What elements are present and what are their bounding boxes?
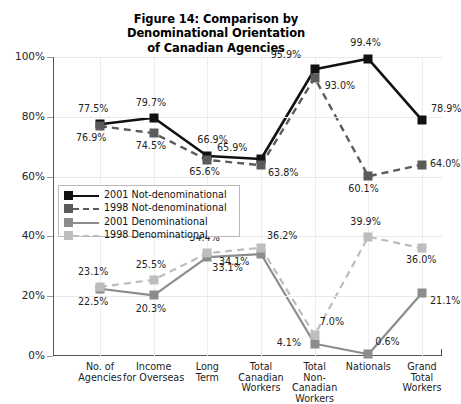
chart-legend: 2001 Not-denominational1998 Not-denomina… bbox=[58, 185, 240, 237]
data-point-label: 7.0% bbox=[320, 317, 344, 327]
y-tick-label: 80% bbox=[1, 111, 45, 122]
data-point-label: 34.1% bbox=[219, 257, 249, 267]
data-point-label: 21.1% bbox=[430, 296, 460, 306]
chart-title: Figure 14: Comparison by Denominational … bbox=[86, 12, 346, 55]
data-point-label: 4.1% bbox=[277, 338, 301, 348]
data-point-label: 20.3% bbox=[136, 304, 166, 314]
data-point-label: 23.1% bbox=[78, 267, 108, 277]
gridline-horizontal bbox=[54, 296, 442, 297]
data-point-marker bbox=[96, 122, 105, 131]
legend-label: 2001 Denominational bbox=[104, 216, 208, 227]
legend-label: 1998 Not-denominational bbox=[104, 202, 227, 213]
legend-line-sample bbox=[73, 195, 99, 197]
data-point-label: 0.6% bbox=[375, 337, 399, 347]
data-point-label: 77.5% bbox=[78, 104, 108, 114]
x-axis-right-cap bbox=[441, 349, 442, 356]
data-point-marker bbox=[364, 232, 373, 241]
data-point-label: 95.9% bbox=[271, 50, 301, 60]
data-point-label: 99.4% bbox=[350, 38, 380, 48]
data-point-marker bbox=[149, 291, 158, 300]
x-axis-line bbox=[53, 355, 442, 356]
legend-line-sample bbox=[73, 235, 99, 237]
gridline-vertical bbox=[315, 57, 316, 356]
gridline-horizontal bbox=[54, 177, 442, 178]
x-tick-label: GrandTotalWorkers bbox=[385, 362, 459, 394]
legend-line-sample bbox=[73, 208, 99, 210]
data-point-label: 25.5% bbox=[136, 260, 166, 270]
data-point-label: 63.8% bbox=[268, 168, 298, 178]
y-axis-line bbox=[53, 57, 54, 356]
y-tick-label: 40% bbox=[1, 230, 45, 241]
data-point-marker bbox=[310, 65, 319, 74]
legend-line-sample bbox=[73, 222, 99, 224]
data-point-label: 76.9% bbox=[76, 133, 106, 143]
data-point-label: 79.7% bbox=[136, 98, 166, 108]
data-point-label: 64.0% bbox=[430, 159, 460, 169]
gridline-horizontal bbox=[54, 57, 442, 58]
data-point-marker bbox=[418, 244, 427, 253]
gridline-vertical bbox=[261, 57, 262, 356]
data-point-label: 93.0% bbox=[325, 81, 355, 91]
x-tick-label-line: Workers bbox=[278, 394, 352, 404]
data-point-marker bbox=[310, 73, 319, 82]
data-point-marker bbox=[418, 116, 427, 125]
y-tick-label: 20% bbox=[1, 290, 45, 301]
data-point-label: 65.9% bbox=[217, 143, 247, 153]
data-point-marker bbox=[418, 288, 427, 297]
data-point-marker bbox=[149, 113, 158, 122]
legend-swatch bbox=[64, 191, 73, 200]
chart-title-line-2: Denominational Orientation bbox=[86, 26, 346, 40]
data-point-label: 36.0% bbox=[406, 255, 436, 265]
data-point-label: 65.6% bbox=[189, 167, 219, 177]
gridline-horizontal bbox=[54, 117, 442, 118]
y-tick-mark bbox=[47, 177, 53, 178]
data-point-marker bbox=[203, 155, 212, 164]
data-point-marker bbox=[149, 275, 158, 284]
y-tick-label: 100% bbox=[1, 51, 45, 62]
chart-title-line-3: of Canadian Agencies bbox=[86, 41, 346, 55]
y-tick-mark bbox=[47, 356, 53, 357]
legend-label: 2001 Not-denominational bbox=[104, 189, 227, 200]
data-point-label: 22.5% bbox=[78, 297, 108, 307]
data-point-marker bbox=[257, 243, 266, 252]
data-point-label: 36.2% bbox=[267, 231, 297, 241]
y-tick-mark bbox=[47, 117, 53, 118]
y-tick-mark bbox=[47, 236, 53, 237]
gridline-vertical bbox=[422, 57, 423, 356]
data-point-label: 60.1% bbox=[348, 184, 378, 194]
gridline-vertical bbox=[368, 57, 369, 356]
y-tick-label: 60% bbox=[1, 171, 45, 182]
data-point-label: 78.9% bbox=[431, 104, 461, 114]
legend-swatch bbox=[64, 218, 73, 227]
data-point-marker bbox=[364, 350, 373, 359]
x-tick-label-line: Workers bbox=[385, 383, 459, 394]
legend-swatch bbox=[64, 231, 73, 240]
data-point-marker bbox=[418, 160, 427, 169]
data-point-label: 74.5% bbox=[136, 141, 166, 151]
data-point-marker bbox=[203, 249, 212, 258]
y-tick-label: 0% bbox=[1, 350, 45, 361]
data-point-marker bbox=[257, 161, 266, 170]
legend-label: 1998 Denominational bbox=[104, 229, 208, 240]
data-point-marker bbox=[310, 339, 319, 348]
data-point-marker bbox=[96, 282, 105, 291]
data-point-marker bbox=[364, 54, 373, 63]
y-tick-mark bbox=[47, 57, 53, 58]
y-tick-mark bbox=[47, 296, 53, 297]
legend-swatch bbox=[64, 204, 73, 213]
data-point-marker bbox=[149, 129, 158, 138]
data-point-marker bbox=[364, 172, 373, 181]
data-point-label: 39.9% bbox=[350, 217, 380, 227]
x-tick-label-line: Grand bbox=[385, 362, 459, 373]
chart-title-line-1: Figure 14: Comparison by bbox=[86, 12, 346, 26]
data-point-marker bbox=[310, 331, 319, 340]
